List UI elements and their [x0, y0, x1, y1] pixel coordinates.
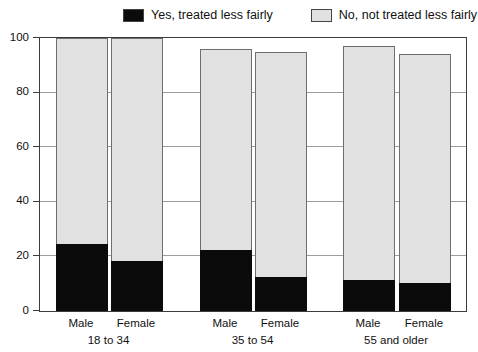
- legend-item-no: No, not treated less fairly: [311, 8, 477, 22]
- bar-segment-yes-35-to-54-female: [255, 277, 307, 311]
- bar-35-to-54-male: [200, 49, 252, 311]
- bar-55-and-older-female: [399, 54, 451, 311]
- y-axis: 020406080100: [0, 37, 39, 310]
- bar-18-to-34-male: [56, 38, 108, 311]
- x-label-55-and-older-male: Male: [356, 317, 381, 330]
- x-label-18-to-34-female: Female: [117, 317, 155, 330]
- x-label-18-to-34-male: Male: [69, 317, 94, 330]
- x-label-35-to-54-male: Male: [213, 317, 238, 330]
- legend-item-yes: Yes, treated less fairly: [123, 8, 273, 22]
- bar-segment-yes-55-and-older-female: [399, 283, 451, 311]
- stacked-bar-chart: Yes, treated less fairly No, not treated…: [0, 0, 478, 352]
- x-label-35-to-54-female: Female: [261, 317, 299, 330]
- bar-segment-yes-18-to-34-male: [56, 244, 108, 311]
- y-tick-label-80: 80: [16, 85, 29, 98]
- bar-35-to-54-female: [255, 52, 307, 311]
- bar-segment-yes-55-and-older-male: [343, 280, 395, 311]
- y-tick-label-100: 100: [10, 31, 29, 44]
- legend: Yes, treated less fairly No, not treated…: [123, 8, 477, 22]
- group-label-18-to-34: 18 to 34: [88, 334, 130, 347]
- group-label-35-to-54: 35 to 54: [232, 334, 274, 347]
- bar-18-to-34-female: [111, 38, 163, 311]
- legend-swatch-yes-icon: [123, 9, 144, 22]
- bar-segment-yes-18-to-34-female: [111, 261, 163, 311]
- y-tick-label-40: 40: [16, 194, 29, 207]
- legend-label-no: No, not treated less fairly: [339, 8, 477, 22]
- bar-segment-yes-35-to-54-male: [200, 250, 252, 311]
- plot-area: [39, 37, 467, 312]
- y-tick-label-60: 60: [16, 140, 29, 153]
- group-label-55-and-older: 55 and older: [364, 334, 428, 347]
- bar-55-and-older-male: [343, 46, 395, 311]
- legend-label-yes: Yes, treated less fairly: [151, 8, 273, 22]
- y-tick-label-20: 20: [16, 249, 29, 262]
- legend-swatch-no-icon: [311, 9, 332, 22]
- y-tick-label-0: 0: [23, 304, 29, 317]
- x-label-55-and-older-female: Female: [405, 317, 443, 330]
- x-axis-labels: MaleFemaleMaleFemaleMaleFemale18 to 3435…: [39, 311, 465, 351]
